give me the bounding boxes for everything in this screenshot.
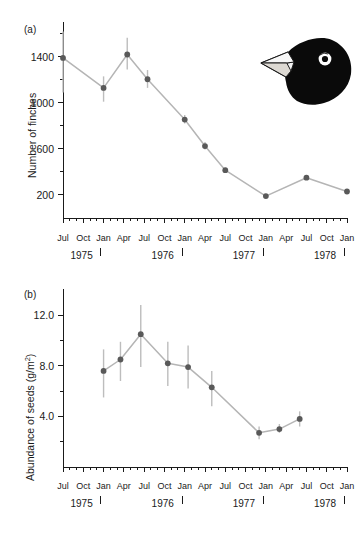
panel-b: (b) Abundance of seeds (g/m2) 4.08.012.0… (0, 267, 361, 539)
y-tick-label: 12.0 (34, 309, 55, 321)
data-point-marker (165, 360, 171, 366)
data-point-marker (124, 52, 130, 58)
data-point-marker (276, 426, 282, 432)
data-point-marker (145, 76, 151, 82)
data-point-marker (118, 357, 124, 363)
data-point-marker (182, 117, 188, 123)
y-tick-label: 600 (36, 143, 54, 155)
x-year-label: 1976 (152, 498, 175, 509)
x-month-label: Jan (96, 233, 111, 243)
x-month-label: Jul (220, 233, 232, 243)
x-year-label: 1975 (70, 250, 93, 261)
panel-a: (a) Number of finches 20060010001400JulO… (0, 0, 361, 272)
y-tick-label: 1400 (31, 51, 55, 63)
x-month-label: Jan (96, 481, 111, 491)
x-year-label: 1977 (233, 498, 256, 509)
data-point-marker (222, 167, 228, 173)
x-month-label: Jul (138, 233, 150, 243)
x-month-label: Jul (57, 481, 69, 491)
x-month-label: Oct (239, 481, 254, 491)
x-month-label: Jul (220, 481, 232, 491)
x-month-label: Jul (57, 233, 69, 243)
x-month-label: Jan (177, 233, 192, 243)
x-month-label: Jul (301, 481, 313, 491)
x-year-label: 1978 (314, 250, 337, 261)
x-month-label: Oct (157, 233, 172, 243)
x-month-label: Jul (301, 233, 313, 243)
data-point-marker (101, 368, 107, 374)
x-month-label: Jan (259, 233, 274, 243)
y-tick-label: 8.0 (39, 360, 54, 372)
x-month-label: Oct (320, 233, 335, 243)
data-point-marker (263, 193, 269, 199)
data-point-marker (138, 331, 144, 337)
data-point-marker (60, 55, 66, 61)
figure-container: (a) Number of finches 20060010001400JulO… (0, 0, 361, 539)
x-year-label: 1978 (314, 498, 337, 509)
x-month-label: Jan (177, 481, 192, 491)
series-line (104, 334, 300, 433)
x-month-label: Apr (198, 233, 212, 243)
data-point-marker (304, 175, 310, 181)
data-point-marker (256, 430, 262, 436)
x-month-label: Oct (76, 481, 91, 491)
x-month-label: Oct (76, 233, 91, 243)
x-month-label: Oct (239, 233, 254, 243)
x-month-label: Oct (157, 481, 172, 491)
x-year-label: 1977 (233, 250, 256, 261)
x-month-label: Apr (279, 233, 293, 243)
finch-head-icon (258, 32, 356, 110)
x-month-label: Jan (340, 481, 355, 491)
data-point-marker (297, 416, 303, 422)
y-tick-label: 200 (36, 189, 54, 201)
y-tick-label: 1000 (31, 97, 55, 109)
data-point-marker (101, 85, 107, 91)
x-month-label: Apr (279, 481, 293, 491)
x-month-label: Apr (198, 481, 212, 491)
y-tick-label: 4.0 (39, 410, 54, 422)
x-month-label: Oct (320, 481, 335, 491)
panel-b-plot: 4.08.012.0JulOctJanAprJulOctJanAprJulOct… (0, 267, 361, 539)
data-point-marker (344, 189, 350, 195)
x-month-label: Jul (138, 481, 150, 491)
x-month-label: Apr (117, 233, 131, 243)
x-month-label: Jan (340, 233, 355, 243)
x-year-label: 1975 (70, 498, 93, 509)
data-point-marker (202, 143, 208, 149)
x-year-label: 1976 (152, 250, 175, 261)
data-point-marker (209, 384, 215, 390)
x-month-label: Jan (259, 481, 274, 491)
x-month-label: Apr (117, 481, 131, 491)
data-point-marker (185, 364, 191, 370)
